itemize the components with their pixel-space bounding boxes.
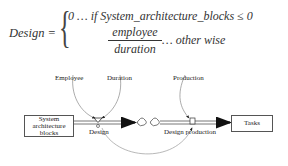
aux-production: Production [173, 74, 204, 82]
cloud-icon [137, 118, 159, 126]
valve-design-production-icon [190, 118, 195, 124]
aux-duration: Duration [107, 74, 132, 82]
equation-case-zero: 0 … if System_architecture_blocks ≤ 0 [68, 9, 253, 24]
stock-system-architecture-blocks: System architecture blocks [24, 115, 74, 137]
fraction-bar [108, 40, 162, 41]
flow-label-design-production: Design production [164, 128, 216, 136]
fraction-denominator: duration [108, 42, 162, 56]
stock-tasks: Tasks [231, 115, 273, 132]
flow-pipe-design [72, 121, 135, 124]
flow-label-design: Design [89, 128, 109, 136]
design-equation: Design = { 0 … if System_architecture_bl… [0, 0, 288, 66]
equation-lhs: Design = [9, 26, 56, 41]
equation-case-otherwise: … other wise [162, 33, 225, 48]
valve-design-icon [94, 118, 102, 128]
equation-fraction: employee duration [108, 25, 162, 56]
aux-employee: Employee [55, 74, 83, 82]
fraction-numerator: employee [108, 25, 162, 39]
